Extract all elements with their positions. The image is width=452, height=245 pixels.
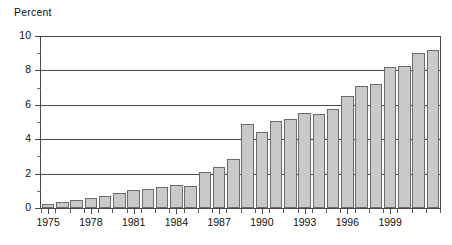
x-axis-minor-tick (369, 209, 370, 213)
x-axis-minor-tick (298, 209, 299, 213)
bar (70, 200, 83, 208)
x-axis-minor-tick (155, 209, 156, 213)
bar (99, 196, 112, 208)
x-axis-minor-tick (397, 209, 398, 213)
bar (427, 50, 440, 208)
x-axis-minor-tick (226, 209, 227, 213)
x-axis-tick-label: 1981 (114, 216, 154, 228)
y-axis-tick-label: 4 (5, 132, 31, 144)
x-axis-minor-tick (283, 209, 284, 213)
bar (199, 172, 212, 208)
x-axis-minor-tick (198, 209, 199, 213)
x-axis-tick (262, 209, 263, 214)
x-axis-tick (347, 209, 348, 214)
x-axis-tick (176, 209, 177, 214)
x-axis-tick (134, 209, 135, 214)
x-axis-minor-tick (98, 209, 99, 213)
x-axis-tick-label: 1978 (71, 216, 111, 228)
bar (270, 121, 283, 208)
bar (355, 86, 368, 208)
bar (156, 187, 169, 208)
x-axis-tick (305, 209, 306, 214)
x-axis-minor-tick (127, 209, 128, 213)
y-axis-title: Percent (14, 6, 52, 18)
y-axis-tick-label: 0 (5, 201, 31, 213)
bar (298, 113, 311, 208)
x-axis-minor-tick (169, 209, 170, 213)
bar (42, 204, 55, 208)
bar (398, 66, 411, 208)
x-axis-tick-label: 1999 (370, 216, 410, 228)
x-axis-minor-tick (184, 209, 185, 213)
x-axis-tick-label: 1975 (28, 216, 68, 228)
bar (313, 114, 326, 208)
x-axis-tick-label: 1984 (156, 216, 196, 228)
bar (370, 84, 383, 208)
plot-right-border (440, 36, 441, 209)
x-axis-tick (219, 209, 220, 214)
x-axis-minor-tick (84, 209, 85, 213)
x-axis-minor-tick (383, 209, 384, 213)
bar (184, 186, 197, 208)
bar (56, 202, 69, 208)
x-axis-tick-label: 1993 (285, 216, 325, 228)
x-axis-minor-tick (412, 209, 413, 213)
x-axis-minor-tick (440, 209, 441, 213)
bar (85, 198, 98, 208)
x-axis-minor-tick (355, 209, 356, 213)
x-axis-tick (390, 209, 391, 214)
bar (127, 190, 140, 208)
x-axis-minor-tick (212, 209, 213, 213)
x-axis-minor-tick (112, 209, 113, 213)
y-axis-tick-label: 2 (5, 167, 31, 179)
x-axis-minor-tick (41, 209, 42, 213)
x-axis-minor-tick (241, 209, 242, 213)
y-axis-tick-label: 6 (5, 98, 31, 110)
x-axis-minor-tick (340, 209, 341, 213)
y-axis-tick-label: 10 (5, 29, 31, 41)
x-axis-minor-tick (141, 209, 142, 213)
x-axis-minor-tick (55, 209, 56, 213)
bar (412, 53, 425, 208)
x-axis-minor-tick (426, 209, 427, 213)
x-axis-minor-tick (326, 209, 327, 213)
bar (113, 193, 126, 208)
bar (284, 119, 297, 208)
x-axis-tick-label: 1996 (327, 216, 367, 228)
x-axis-minor-tick (255, 209, 256, 213)
y-axis-tick-label: 8 (5, 63, 31, 75)
x-axis-tick-label: 1990 (242, 216, 282, 228)
bar (241, 124, 254, 208)
bar (227, 159, 240, 208)
bar (213, 167, 226, 208)
bar (142, 189, 155, 208)
bar (256, 132, 269, 208)
x-axis-minor-tick (269, 209, 270, 213)
bar (170, 185, 183, 208)
bar-chart: Percent 0246810 197519781981198419871990… (0, 0, 452, 245)
x-axis-minor-tick (312, 209, 313, 213)
bar (327, 109, 340, 208)
x-axis-tick-label: 1987 (199, 216, 239, 228)
plot-area (41, 36, 440, 208)
bar (384, 67, 397, 208)
x-axis-minor-tick (70, 209, 71, 213)
x-axis-tick (91, 209, 92, 214)
x-axis-tick (48, 209, 49, 214)
bar (341, 96, 354, 208)
